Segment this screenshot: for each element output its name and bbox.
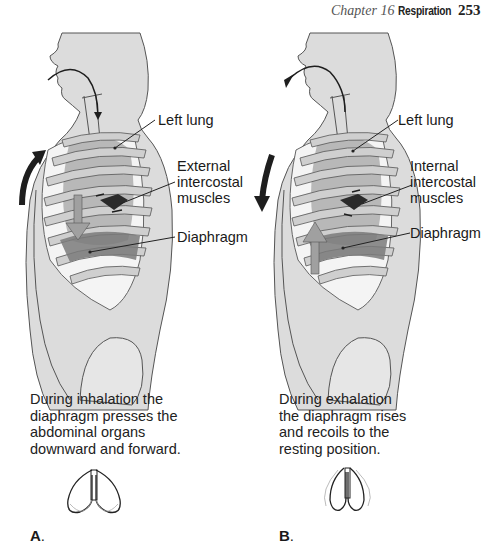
panel-letter-b: B.	[279, 527, 294, 544]
label-diaphragm-b: Diaphragm	[410, 225, 481, 241]
panel-b-illustration	[254, 33, 421, 410]
caption-inhalation: During inhalation the diaphragm presses …	[30, 391, 181, 457]
lung-icon-a	[68, 470, 121, 513]
caption-exhalation: During exhalation the diaphragm rises an…	[279, 391, 406, 457]
label-external-intercostal-muscles: External intercostal muscles	[177, 158, 243, 206]
lung-icon-b	[325, 468, 371, 510]
panel-a-illustration	[22, 33, 175, 410]
respiration-figure	[0, 0, 485, 551]
label-left-lung-b: Left lung	[398, 112, 454, 128]
panel-letter-a: A.	[30, 527, 45, 544]
label-diaphragm-a: Diaphragm	[177, 229, 248, 245]
label-left-lung-a: Left lung	[158, 112, 214, 128]
label-internal-intercostal-muscles: Internal intercostal muscles	[410, 158, 476, 206]
